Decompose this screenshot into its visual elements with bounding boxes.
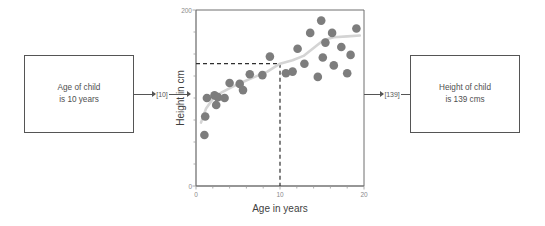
y-axis-title: Height in cm [175, 70, 186, 126]
connector-right-line-in [364, 94, 383, 95]
data-point [328, 29, 337, 38]
data-point [352, 24, 361, 33]
connector-left-line-in [134, 94, 155, 95]
data-point [220, 94, 229, 103]
data-point [306, 29, 315, 38]
data-point [266, 52, 275, 61]
x-tick-label-20: 20 [360, 191, 368, 198]
data-point [319, 53, 328, 62]
x-tick-label-0: 0 [194, 191, 198, 198]
data-point [321, 38, 330, 47]
data-point [239, 86, 248, 95]
scatter-chart: 200 0 0 10 20 Age in years Height in cm [170, 0, 380, 226]
data-point [288, 67, 297, 76]
data-point [200, 131, 209, 140]
data-point [337, 43, 346, 52]
input-box: Age of child is 10 years [24, 55, 134, 133]
data-point [258, 71, 267, 80]
x-tick-label-10: 10 [276, 191, 284, 198]
data-point [343, 69, 352, 78]
data-point [246, 70, 255, 79]
diagram-canvas: Age of child is 10 years [10] [0, 0, 545, 226]
x-axis-title: Age in years [252, 203, 308, 214]
y-tick-label-0: 0 [188, 183, 192, 190]
data-point [314, 73, 323, 82]
output-box-text: Height of child is 139 cms [439, 82, 491, 106]
data-point [346, 51, 355, 60]
data-point [300, 59, 309, 68]
y-tick-label-200: 200 [181, 7, 192, 14]
data-point [293, 44, 302, 53]
data-point [330, 61, 339, 70]
input-box-text: Age of child is 10 years [58, 82, 101, 106]
data-point [201, 112, 210, 121]
data-point [203, 94, 212, 103]
output-box: Height of child is 139 cms [410, 55, 520, 133]
data-point [317, 16, 326, 25]
connector-right-label: [139] [383, 91, 400, 98]
data-point [212, 101, 221, 110]
data-point [225, 79, 234, 88]
connector-left-label: [10] [155, 91, 168, 98]
